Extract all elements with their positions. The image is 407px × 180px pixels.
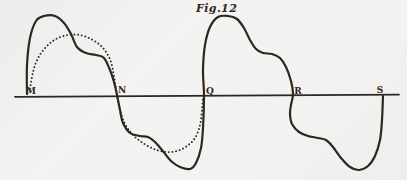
axis-label-R: R bbox=[294, 86, 302, 96]
waveform-canvas: MNQRS bbox=[0, 0, 407, 180]
waveform-figure: MNQRS Fig.12 bbox=[0, 0, 407, 180]
axis-label-N: N bbox=[118, 85, 126, 95]
solid-wave-curve bbox=[27, 15, 383, 170]
axis-label-Q: Q bbox=[206, 86, 214, 96]
axis-label-S: S bbox=[377, 85, 384, 95]
axis-label-M: M bbox=[26, 86, 36, 96]
figure-caption: Fig.12 bbox=[196, 3, 237, 15]
